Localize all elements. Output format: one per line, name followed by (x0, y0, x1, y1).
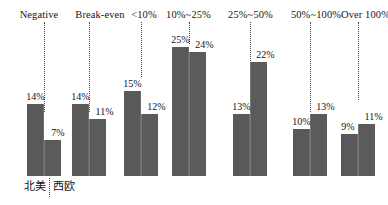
value-label-50-100-western-europe: 13% (311, 101, 340, 112)
category-label-25-50: 25%~50% (219, 9, 282, 21)
bar-10-25-western-europe (189, 52, 206, 176)
value-label-over-100-western-europe: 11% (359, 111, 388, 122)
bar-10-25-north-america (172, 47, 189, 176)
bar-over-100-north-america (341, 134, 358, 176)
value-label-over-100-north-america: 9% (335, 121, 361, 132)
value-label-under-10-western-europe: 12% (142, 101, 171, 112)
value-label-break-even-north-america: 14% (66, 91, 95, 102)
value-label-25-50-western-europe: 22% (251, 49, 280, 60)
value-label-25-50-north-america: 13% (227, 101, 256, 112)
bar-negative-western-europe (44, 140, 61, 176)
bar-break-even-western-europe (89, 119, 106, 176)
bar-25-50-western-europe (250, 62, 267, 176)
category-label-10-25: 10%~25% (157, 9, 220, 21)
bar-under-10-western-europe (141, 114, 158, 176)
value-label-10-25-western-europe: 24% (190, 39, 219, 50)
value-label-break-even-western-europe: 11% (90, 106, 119, 117)
value-label-50-100-north-america: 10% (287, 116, 316, 127)
legend-label-north-america: 北美 (24, 180, 46, 193)
legend-divider (49, 178, 51, 197)
bar-negative-north-america (27, 104, 44, 176)
value-label-negative-western-europe: 7% (45, 127, 71, 138)
value-label-negative-north-america: 14% (21, 91, 50, 102)
group-separator-2 (141, 22, 143, 77)
legend-label-western-europe: 西欧 (53, 180, 75, 193)
group-separator-5 (310, 22, 312, 112)
bar-break-even-north-america (72, 104, 89, 176)
bar-50-100-north-america (293, 129, 310, 176)
bar-chart: Negative Break-even <10% 10%~25% 25%~50%… (0, 0, 388, 205)
bar-25-50-north-america (233, 114, 250, 176)
value-label-under-10-north-america: 15% (118, 78, 147, 89)
group-separator-4 (250, 22, 252, 67)
bar-under-10-north-america (124, 91, 141, 176)
category-label-over-100: Over 100% (341, 9, 388, 21)
group-separator-6 (358, 22, 360, 100)
